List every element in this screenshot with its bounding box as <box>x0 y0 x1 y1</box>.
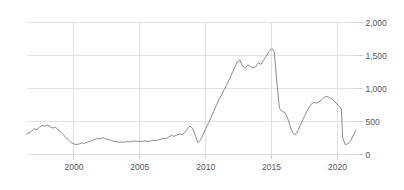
x-tick-label-2005: 2005 <box>130 162 149 172</box>
x-axis-labels: 20002005201020152020 <box>64 162 347 172</box>
y-tick-label-0: 0 <box>366 150 371 160</box>
x-tick-label-2015: 2015 <box>262 162 281 172</box>
y-tick-label-2000: 2,000 <box>366 18 388 28</box>
y-tick-label-500: 500 <box>366 117 380 127</box>
y-tick-label-1000: 1,000 <box>366 84 388 94</box>
chart-container: 05001,0001,5002,000 20002005201020152020 <box>0 0 404 190</box>
y-axis-labels: 05001,0001,5002,000 <box>366 18 388 160</box>
y-tick-label-1500: 1,500 <box>366 51 388 61</box>
data-series-group <box>27 49 356 145</box>
x-tick-label-2000: 2000 <box>64 162 83 172</box>
gridlines-horizontal <box>27 23 359 155</box>
axis-ticks <box>74 23 363 159</box>
x-tick-label-2010: 2010 <box>196 162 215 172</box>
x-tick-label-2020: 2020 <box>328 162 347 172</box>
series-line-1 <box>27 49 356 145</box>
line-chart: 05001,0001,5002,000 20002005201020152020 <box>0 0 404 190</box>
